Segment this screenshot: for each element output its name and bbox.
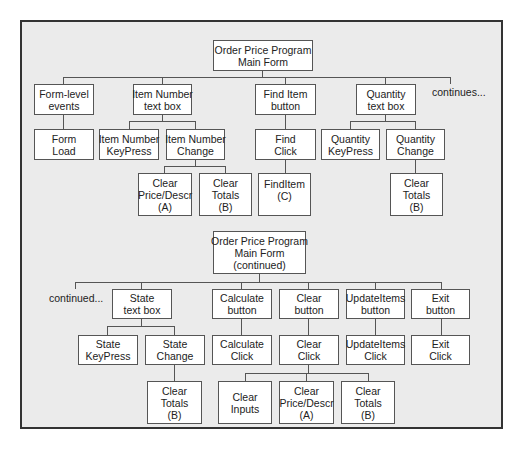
node-quantity-keypress: Quantity KeyPress bbox=[321, 129, 380, 160]
connector bbox=[141, 282, 142, 289]
node-label: Item Number bbox=[165, 133, 226, 145]
node-label: Find Item bbox=[264, 88, 308, 100]
node-label: Totals bbox=[161, 397, 188, 409]
node-label: Click bbox=[231, 350, 254, 362]
node-label: button bbox=[227, 304, 256, 316]
node-label: Clear bbox=[404, 177, 429, 189]
node-label: Totals bbox=[403, 189, 430, 201]
node-clear-totals: Clear Totals (B) bbox=[147, 381, 202, 424]
node-label: text box bbox=[124, 304, 161, 316]
connector bbox=[375, 318, 376, 335]
node-clear-totals: Clear Totals (B) bbox=[341, 381, 395, 424]
node-label: button bbox=[294, 304, 323, 316]
connector bbox=[368, 373, 369, 381]
connector bbox=[350, 121, 416, 122]
node-label: Inputs bbox=[231, 403, 260, 415]
node-label: (B) bbox=[168, 409, 182, 421]
node-form-level-events: Form-level events bbox=[34, 84, 94, 115]
node-label: Form-level bbox=[39, 88, 89, 100]
diagram-frame bbox=[20, 20, 503, 429]
node-label: Calculate bbox=[220, 292, 264, 304]
continued-label: continued... bbox=[49, 292, 103, 304]
node-label: Quantity bbox=[366, 88, 405, 100]
connector bbox=[162, 77, 163, 84]
node-label: Click bbox=[364, 350, 387, 362]
node-label: Form bbox=[52, 133, 77, 145]
node-clear-inputs: Clear Inputs bbox=[218, 381, 272, 424]
connector bbox=[308, 318, 309, 335]
node-label: Price/Descr bbox=[138, 189, 192, 201]
node-item-number-change: Item Number Change bbox=[166, 129, 225, 160]
node-label: (B) bbox=[361, 409, 375, 421]
node-label: Price/Descr bbox=[279, 397, 333, 409]
node-label: (A) bbox=[158, 201, 172, 213]
node-state-text-box: State text box bbox=[112, 289, 172, 319]
node-state-keypress: State KeyPress bbox=[78, 335, 138, 365]
node-label: Change bbox=[157, 350, 194, 362]
node-label: Item Number bbox=[99, 133, 160, 145]
connector bbox=[245, 373, 369, 374]
connector bbox=[107, 326, 175, 327]
node-label: Clear bbox=[294, 385, 319, 397]
node-label: UpdateItems bbox=[346, 338, 406, 350]
node-label: text box bbox=[368, 100, 405, 112]
connector bbox=[107, 326, 108, 335]
continues-label: continues... bbox=[432, 86, 486, 98]
node-label: UpdateItems bbox=[346, 292, 406, 304]
node-label: Clear bbox=[232, 391, 257, 403]
connector bbox=[63, 114, 64, 129]
node-label: Clear bbox=[162, 385, 187, 397]
node-clear-totals: Clear Totals (B) bbox=[390, 173, 443, 216]
node-updateitems-click: UpdateItems Click bbox=[346, 335, 405, 365]
node-label: Totals bbox=[212, 189, 239, 201]
node-exit-button: Exit button bbox=[411, 289, 470, 319]
node-label: Exit bbox=[432, 338, 450, 350]
node-label: Click bbox=[274, 145, 297, 157]
node-quantity-text-box: Quantity text box bbox=[356, 84, 416, 115]
node-updateitems-button: UpdateItems button bbox=[346, 289, 405, 319]
connector bbox=[195, 159, 196, 166]
node-label: button bbox=[271, 100, 300, 112]
node-label: (B) bbox=[410, 201, 424, 213]
node-finditem: FindItem (C) bbox=[258, 173, 311, 216]
node-label: KeyPress bbox=[328, 145, 373, 157]
node-item-number-text-box: Item Number text box bbox=[133, 84, 192, 115]
node-find-item-button: Find Item button bbox=[255, 84, 316, 115]
connector bbox=[375, 282, 376, 289]
connector bbox=[441, 282, 442, 289]
node-label: State bbox=[163, 338, 188, 350]
node-label: Quantity bbox=[396, 133, 435, 145]
node-label: KeyPress bbox=[107, 145, 152, 157]
node-label: (B) bbox=[219, 201, 233, 213]
connector bbox=[241, 318, 242, 335]
connector bbox=[415, 121, 416, 129]
node-label: Item Number bbox=[132, 88, 193, 100]
node-label: events bbox=[49, 100, 80, 112]
node-label: Find bbox=[275, 133, 295, 145]
node-find-click: Find Click bbox=[255, 129, 316, 160]
node-label: Quantity bbox=[331, 133, 370, 145]
connector bbox=[385, 77, 386, 84]
connector bbox=[308, 364, 309, 373]
node-label: Exit bbox=[432, 292, 450, 304]
node-label: KeyPress bbox=[86, 350, 131, 362]
node-state-change: State Change bbox=[145, 335, 205, 365]
node-calculate-button: Calculate button bbox=[212, 289, 272, 319]
connector bbox=[308, 282, 309, 289]
connector bbox=[63, 77, 451, 78]
connector bbox=[174, 326, 175, 335]
node-item-number-keypress: Item Number KeyPress bbox=[99, 129, 159, 160]
connector bbox=[129, 121, 130, 129]
node-label: Clear bbox=[213, 177, 238, 189]
connector bbox=[195, 121, 196, 129]
node-label: Order Price Program bbox=[215, 44, 312, 56]
node-label: Main Form bbox=[234, 247, 284, 259]
connector bbox=[75, 282, 76, 289]
node-label: State bbox=[130, 292, 155, 304]
connector bbox=[174, 364, 175, 381]
node-label: (C) bbox=[277, 190, 292, 202]
node-quantity-change: Quantity Change bbox=[386, 129, 445, 160]
node-label: (continued) bbox=[233, 259, 286, 271]
connector bbox=[164, 166, 165, 173]
connector bbox=[441, 318, 442, 335]
